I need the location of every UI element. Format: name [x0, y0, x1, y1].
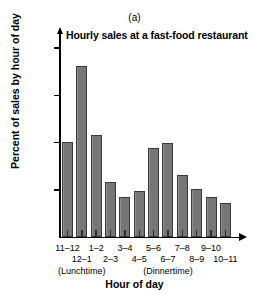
y-tick-5: [54, 189, 60, 191]
bar: [91, 135, 102, 236]
bar-foot-tick: [139, 230, 141, 237]
y-tick-20: [54, 47, 60, 49]
bar-foot-tick: [81, 230, 83, 237]
bar-foot-tick: [225, 230, 227, 237]
x-category-label: 2–3: [103, 254, 118, 264]
x-category-label: 11–12: [55, 243, 79, 253]
bar-foot-tick: [95, 230, 97, 237]
y-tick-10: [54, 142, 60, 144]
y-axis-title: Percent of sales by hour of day: [9, 0, 21, 186]
plot-area: 5%10%15%20%: [59, 33, 245, 238]
x-category-label: 1–2: [89, 243, 104, 253]
x-category-label: 3–4: [117, 243, 132, 253]
bar-foot-tick: [153, 230, 155, 237]
x-category-label: 10–11: [213, 254, 237, 264]
bar: [162, 143, 173, 237]
x-category-label: 12–1: [72, 254, 92, 264]
x-category-label: 5–6: [146, 243, 161, 253]
x-axis-line: [59, 237, 239, 239]
x-category-label: 4–5: [132, 254, 147, 264]
panel-label: (a): [0, 12, 269, 23]
bar-foot-tick: [167, 230, 169, 237]
bar-foot-tick: [67, 230, 69, 237]
bar: [148, 148, 159, 237]
y-axis-line: [59, 33, 61, 238]
x-category-label: 8–9: [189, 254, 204, 264]
y-tick-15: [54, 95, 60, 97]
x-category-label: 6–7: [160, 254, 175, 264]
bar-foot-tick: [182, 230, 184, 237]
figure-panel: (a) Hourly sales at a fast-food restaura…: [0, 0, 269, 300]
meal-annotation: (Dinnertime): [143, 266, 193, 276]
bar: [105, 182, 116, 237]
bar-foot-tick: [210, 230, 212, 237]
x-category-label: 9–10: [201, 243, 221, 253]
bar-foot-tick: [124, 230, 126, 237]
bar: [177, 175, 188, 237]
x-category-label: 7–8: [175, 243, 190, 253]
bar: [62, 142, 73, 237]
bar-foot-tick: [196, 230, 198, 237]
bar-foot-tick: [110, 230, 112, 237]
y-axis-arrow-icon: [57, 27, 63, 34]
bar: [76, 66, 87, 236]
x-axis-title: Hour of day: [0, 278, 269, 290]
x-axis-arrow-icon: [239, 233, 247, 241]
meal-annotation: (Lunchtime): [58, 266, 106, 276]
